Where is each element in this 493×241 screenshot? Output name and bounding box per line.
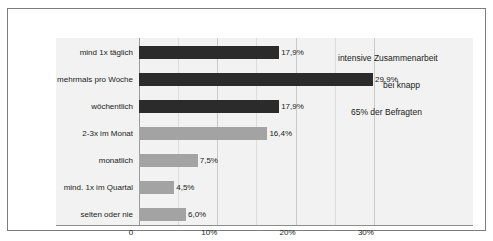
category-label: 2-3x im Monat (82, 120, 139, 147)
bar-value-label: 17,9% (279, 46, 304, 59)
bar-row: mind. 1x im Quartal4,5% (56, 174, 473, 201)
bar (139, 154, 198, 167)
category-label: mehrmals pro Woche (57, 66, 139, 93)
category-label: mind. 1x im Quartal (64, 174, 139, 201)
category-label: wöchentlich (91, 93, 139, 120)
bar-row: selten oder nie6,0% (56, 201, 473, 228)
bar-value-label: 16,4% (267, 127, 292, 140)
x-tick-label: 0 (129, 228, 133, 237)
bar-value-label: 17,9% (279, 100, 304, 113)
bar (139, 127, 267, 140)
bar-value-label: 7,5% (198, 154, 218, 167)
bar-value-label: 6,0% (186, 208, 206, 221)
bar (139, 46, 279, 59)
category-label: monatlich (99, 147, 139, 174)
bar-value-label: 4,5% (174, 181, 194, 194)
annotation-line-2: bei knapp (383, 80, 420, 90)
bar (139, 208, 186, 221)
x-tick-label: 30% (358, 228, 374, 237)
chart-figure: mind 1x täglich17,9%mehrmals pro Woche29… (0, 0, 493, 241)
figure-frame: mind 1x täglich17,9%mehrmals pro Woche29… (7, 8, 486, 231)
bar-row: 2-3x im Monat16,4% (56, 120, 473, 147)
plot-area: mind 1x täglich17,9%mehrmals pro Woche29… (56, 38, 473, 226)
annotation-line-3: 65% der Befragten (351, 107, 422, 117)
bar (139, 100, 279, 113)
x-tick-label: 10% (201, 228, 217, 237)
bar (139, 181, 174, 194)
bar (139, 73, 373, 86)
category-label: mind 1x täglich (80, 39, 139, 66)
bar-row: monatlich7,5% (56, 147, 473, 174)
x-axis-line (56, 225, 473, 226)
category-label: selten oder nie (81, 201, 139, 228)
annotation-line-1: intensive Zusammenarbeit (338, 53, 438, 63)
x-tick-label: 20% (280, 228, 296, 237)
